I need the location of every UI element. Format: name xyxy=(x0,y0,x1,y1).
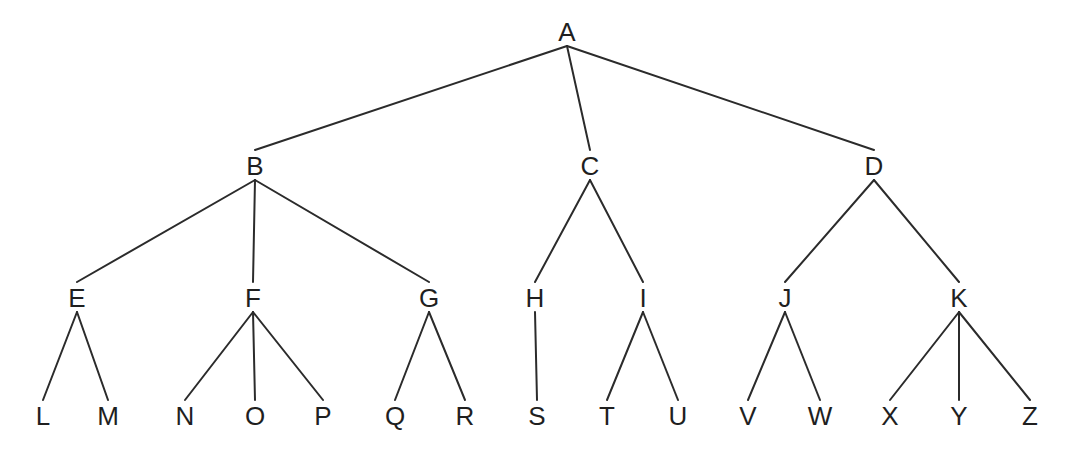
tree-svg: ABCDEFGHIJKLMNOPQRSTUVWXYZ xyxy=(0,0,1070,452)
tree-node-H: H xyxy=(526,283,545,313)
tree-edge-B-G xyxy=(255,180,429,282)
tree-edge-K-Z xyxy=(959,312,1030,400)
tree-node-X: X xyxy=(881,401,898,431)
tree-node-I: I xyxy=(639,283,646,313)
tree-node-Y: Y xyxy=(950,401,967,431)
tree-edge-J-W xyxy=(785,312,820,400)
tree-edge-K-X xyxy=(890,312,959,400)
tree-node-F: F xyxy=(245,283,261,313)
tree-edge-J-V xyxy=(748,312,785,400)
tree-edge-B-F xyxy=(253,180,255,282)
tree-edge-H-S xyxy=(535,312,537,400)
tree-edge-D-K xyxy=(874,180,959,282)
tree-node-L: L xyxy=(36,401,50,431)
tree-node-V: V xyxy=(739,401,757,431)
tree-node-G: G xyxy=(419,283,439,313)
tree-edge-C-I xyxy=(590,180,643,282)
tree-node-M: M xyxy=(97,401,119,431)
tree-edge-C-H xyxy=(535,180,590,282)
tree-node-R: R xyxy=(456,401,475,431)
tree-edge-A-B xyxy=(255,46,567,150)
tree-node-N: N xyxy=(176,401,195,431)
tree-node-K: K xyxy=(950,283,968,313)
tree-edge-A-D xyxy=(567,46,874,150)
tree-node-C: C xyxy=(581,151,600,181)
tree-node-P: P xyxy=(314,401,331,431)
tree-edge-E-M xyxy=(77,312,108,400)
tree-node-J: J xyxy=(779,283,792,313)
tree-node-Z: Z xyxy=(1022,401,1038,431)
tree-node-W: W xyxy=(808,401,833,431)
tree-node-S: S xyxy=(528,401,545,431)
tree-node-Q: Q xyxy=(385,401,405,431)
tree-node-O: O xyxy=(245,401,265,431)
tree-edge-G-R xyxy=(429,312,465,400)
tree-edge-F-O xyxy=(253,312,255,400)
tree-node-U: U xyxy=(669,401,688,431)
tree-edge-A-C xyxy=(567,46,590,150)
tree-edge-G-Q xyxy=(395,312,429,400)
tree-node-D: D xyxy=(865,151,884,181)
tree-edges-group xyxy=(43,46,1030,400)
tree-edge-I-T xyxy=(607,312,643,400)
tree-node-T: T xyxy=(599,401,615,431)
tree-edge-F-N xyxy=(185,312,253,400)
tree-edge-F-P xyxy=(253,312,323,400)
tree-node-B: B xyxy=(246,151,263,181)
tree-edge-D-J xyxy=(785,180,874,282)
tree-node-E: E xyxy=(68,283,85,313)
tree-diagram-canvas: ABCDEFGHIJKLMNOPQRSTUVWXYZ xyxy=(0,0,1070,452)
tree-edge-E-L xyxy=(43,312,77,400)
tree-edge-I-U xyxy=(643,312,678,400)
tree-node-A: A xyxy=(558,17,576,47)
tree-edge-B-E xyxy=(77,180,255,282)
